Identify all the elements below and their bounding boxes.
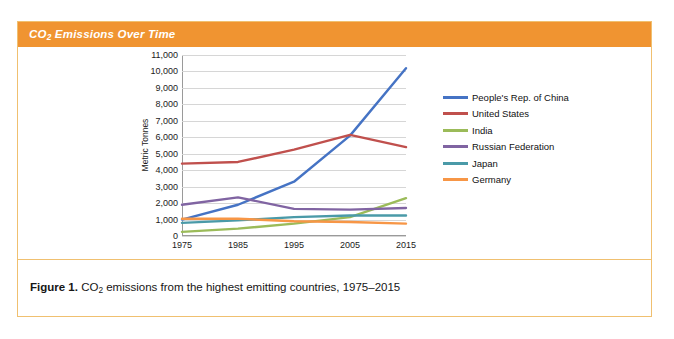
y-axis-tick-label: 2,000	[155, 198, 178, 208]
legend-item: People's Rep. of China	[443, 89, 569, 106]
x-axis-tick-label: 1975	[172, 240, 192, 250]
legend-item-label: People's Rep. of China	[472, 92, 569, 103]
chart-title-prefix: CO	[29, 28, 47, 40]
legend-color-swatch	[443, 96, 468, 99]
series-line	[182, 135, 406, 164]
x-axis-tick-label: 2005	[340, 240, 360, 250]
chart-body: Metric Tonnes 01,0002,0003,0004,0005,000…	[18, 47, 651, 259]
legend-item-label: Russian Federation	[472, 141, 554, 152]
gridline	[182, 236, 406, 237]
x-axis-tick-label: 1995	[284, 240, 304, 250]
legend-item-label: Germany	[472, 174, 511, 185]
y-axis-tick-label: 7,000	[155, 116, 178, 126]
legend-color-swatch	[443, 129, 468, 132]
legend-color-swatch	[443, 162, 468, 165]
plot-region: 01,0002,0003,0004,0005,0006,0007,0008,00…	[182, 55, 406, 236]
chart-title-rest: Emissions Over Time	[51, 28, 175, 40]
legend-item-label: United States	[472, 108, 529, 119]
series-line	[182, 197, 406, 209]
y-axis-tick-label: 9,000	[155, 83, 178, 93]
series-lines	[182, 55, 406, 236]
legend-item: Germany	[443, 172, 569, 189]
legend-color-swatch	[443, 178, 468, 181]
legend-item-label: India	[472, 125, 493, 136]
y-axis-tick-label: 3,000	[155, 182, 178, 192]
legend-color-swatch	[443, 112, 468, 115]
legend-item: Russian Federation	[443, 139, 569, 156]
y-axis-title: Metric Tonnes	[140, 119, 150, 172]
y-axis-tick-label: 11,000	[151, 50, 178, 60]
y-axis-tick-label: 1,000	[155, 215, 178, 225]
figure-card: CO2 Emissions Over Time Metric Tonnes 01…	[17, 21, 652, 317]
legend-color-swatch	[443, 145, 468, 148]
x-axis-tick-label: 1985	[228, 240, 248, 250]
x-axis-tick-label: 2015	[396, 240, 416, 250]
figure-caption-bar: Figure 1. CO2 emissions from the highest…	[18, 259, 651, 316]
figure-caption: Figure 1. CO2 emissions from the highest…	[30, 281, 400, 295]
legend-item-label: Japan	[472, 158, 498, 169]
chart-title-bar: CO2 Emissions Over Time	[18, 22, 651, 47]
y-axis-tick-label: 5,000	[155, 149, 178, 159]
y-axis-tick-label: 8,000	[155, 99, 178, 109]
figure-caption-label: Figure 1.	[30, 281, 78, 293]
y-axis-tick-label: 4,000	[155, 165, 178, 175]
figure-caption-prefix: CO	[78, 281, 98, 293]
chart-title: CO2 Emissions Over Time	[29, 28, 175, 42]
legend-item: United States	[443, 106, 569, 123]
figure-caption-rest: emissions from the highest emitting coun…	[103, 281, 400, 293]
y-axis-tick-label: 10,000	[150, 66, 178, 76]
legend-item: Japan	[443, 155, 569, 172]
y-axis-tick-label: 6,000	[155, 132, 178, 142]
chart-legend: People's Rep. of ChinaUnited StatesIndia…	[443, 89, 569, 188]
legend-item: India	[443, 122, 569, 139]
series-line	[182, 68, 406, 219]
